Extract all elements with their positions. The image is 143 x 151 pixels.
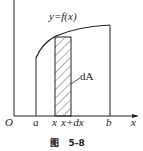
figure-caption: 图 5-8	[50, 138, 85, 148]
tick-label-x: x	[51, 116, 57, 128]
area-strip	[55, 37, 71, 116]
origin-label: O	[5, 116, 13, 128]
tick-label-a: a	[33, 116, 39, 128]
tick-label-b: b	[106, 116, 112, 128]
tick-label-x-plus-dx: x+dx	[60, 116, 84, 128]
da-leader	[71, 78, 80, 84]
curve-label: y=f(x)	[48, 10, 77, 23]
x-axis-label: x	[130, 116, 136, 128]
curve-f	[36, 25, 110, 58]
integral-area-diagram: y=f(x) dA O a x x+dx b x 图 5-8	[0, 0, 143, 151]
area-label: dA	[80, 70, 94, 82]
